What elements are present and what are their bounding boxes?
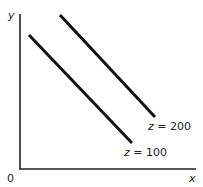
y-axis-label: y	[8, 10, 15, 21]
line-z-200	[60, 15, 155, 117]
label-z-200-eq: = 200	[154, 120, 191, 133]
line-z-100	[29, 35, 132, 143]
label-z-100-eq: = 100	[130, 146, 167, 159]
label-z-100: z = 100	[124, 147, 167, 158]
label-z-200: z = 200	[148, 121, 191, 132]
diagram-canvas	[0, 0, 203, 187]
origin-label: 0	[7, 173, 14, 184]
x-axis-label: x	[189, 173, 196, 184]
